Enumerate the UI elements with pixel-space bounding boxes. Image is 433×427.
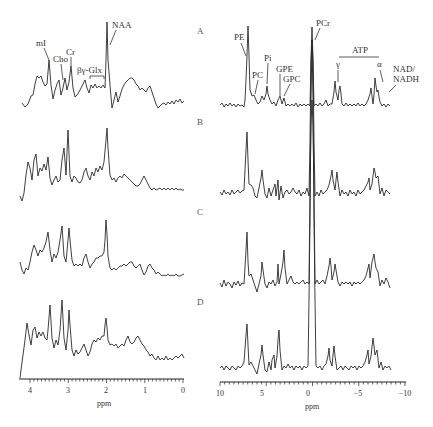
left-trace-c — [20, 220, 184, 276]
leader-cho — [61, 64, 63, 80]
right-tick-minus5: −5 — [354, 389, 363, 398]
peak-label-pc: PC — [252, 70, 263, 80]
leader-gpc — [284, 84, 290, 96]
leader-mi — [44, 48, 49, 60]
right-spectra-panel: PE PC Pi GPE GPC PCr ATP γ α NAD/ NADH 1… — [216, 18, 419, 411]
left-x-axis: 4 3 2 1 0 ppm — [19, 379, 185, 408]
left-tick-2: 2 — [104, 386, 108, 395]
leader-atp-alpha — [380, 70, 383, 82]
peak-label-nadh: NADH — [393, 74, 419, 84]
peak-label-atp-gamma: γ — [335, 59, 340, 69]
peak-label-atp: ATP — [352, 45, 368, 55]
right-tick-5: 5 — [260, 389, 264, 398]
panel-label-a: A — [197, 26, 204, 36]
peak-label-nad: NAD/ — [393, 64, 415, 74]
right-trace-a — [220, 26, 390, 107]
leader-naa — [110, 30, 116, 45]
left-tick-1: 1 — [143, 386, 147, 395]
bracket-glx — [90, 76, 104, 79]
left-trace-b — [20, 128, 184, 201]
leader-pc — [255, 80, 258, 94]
right-trace-b — [220, 40, 390, 200]
panel-label-c: C — [197, 207, 203, 217]
right-tick-0: 0 — [306, 389, 310, 398]
left-tick-4: 4 — [28, 386, 32, 395]
peak-label-cr: Cr — [66, 47, 75, 57]
right-trace-c — [220, 100, 390, 292]
peak-label-pe: PE — [234, 32, 245, 42]
left-axis-label: ppm — [97, 399, 112, 408]
left-trace-a — [22, 22, 184, 108]
peak-label-atp-alpha: α — [377, 59, 382, 69]
right-tick-10: 10 — [216, 389, 224, 398]
left-tick-0: 0 — [181, 386, 185, 395]
leader-nad — [389, 85, 396, 92]
peak-label-gpe: GPE — [276, 64, 294, 74]
panel-label-d: D — [197, 297, 204, 307]
peak-label-pi: Pi — [264, 53, 272, 63]
peak-label-naa: NAA — [112, 20, 132, 30]
left-trace-d — [20, 300, 184, 378]
peak-label-gpc: GPC — [283, 74, 301, 84]
left-axis-ticks — [30, 379, 183, 383]
panel-label-b: B — [197, 117, 203, 127]
peak-label-glx: βγ-Glx — [77, 65, 103, 75]
leader-pi — [267, 63, 268, 84]
leader-pcr — [315, 28, 320, 40]
peak-label-pcr: PCr — [316, 18, 330, 28]
left-spectra-panel: A B C D mI Cho Cr βγ-Glx NAA 4 3 2 1 0 p… — [19, 20, 204, 408]
right-axis-ticks — [220, 382, 405, 386]
leader-pe — [241, 43, 246, 56]
right-x-axis: 10 5 0 −5 −10 ppm — [216, 382, 411, 411]
right-tick-minus10: −10 — [399, 389, 412, 398]
peak-label-mi: mI — [36, 38, 46, 48]
spectra-figure: A B C D mI Cho Cr βγ-Glx NAA 4 3 2 1 0 p… — [0, 0, 433, 427]
left-tick-3: 3 — [66, 386, 70, 395]
right-axis-label: ppm — [305, 402, 320, 411]
